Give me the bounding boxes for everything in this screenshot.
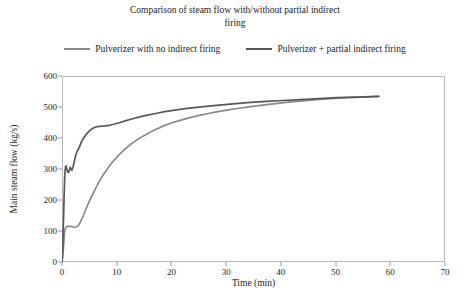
y-tick-label-200: 200 bbox=[44, 195, 58, 205]
y-tick-mark-100 bbox=[58, 231, 62, 232]
legend-label-1: Pulverizer + partial indirect firing bbox=[277, 44, 405, 54]
series-line-0 bbox=[62, 96, 379, 262]
x-tick-mark-40 bbox=[280, 262, 281, 266]
x-tick-mark-10 bbox=[116, 262, 117, 266]
x-tick-label-70: 70 bbox=[441, 267, 450, 277]
y-tick-label-100: 100 bbox=[44, 226, 58, 236]
y-tick-label-500: 500 bbox=[44, 102, 58, 112]
y-tick-label-300: 300 bbox=[44, 164, 58, 174]
y-tick-mark-300 bbox=[58, 169, 62, 170]
x-tick-mark-30 bbox=[226, 262, 227, 266]
x-tick-mark-60 bbox=[390, 262, 391, 266]
x-tick-label-0: 0 bbox=[60, 267, 65, 277]
x-tick-label-10: 10 bbox=[112, 267, 121, 277]
y-tick-mark-500 bbox=[58, 107, 62, 108]
x-tick-label-40: 40 bbox=[276, 267, 285, 277]
plot-lines bbox=[62, 76, 445, 262]
x-axis-label: Time (min) bbox=[62, 278, 445, 288]
plot-area: 0100200300400500600 010203040506070 bbox=[62, 76, 445, 262]
legend-item-0: Pulverizer with no indirect firing bbox=[64, 44, 220, 54]
chart-legend: Pulverizer with no indirect firing Pulve… bbox=[0, 44, 470, 54]
y-axis-label: Main steam flow (kg/s) bbox=[6, 76, 22, 262]
series-line-1 bbox=[62, 96, 379, 262]
y-tick-label-0: 0 bbox=[53, 257, 58, 267]
x-tick-mark-20 bbox=[171, 262, 172, 266]
x-tick-mark-70 bbox=[445, 262, 446, 266]
legend-label-0: Pulverizer with no indirect firing bbox=[95, 44, 220, 54]
legend-swatch-0 bbox=[64, 48, 90, 50]
x-tick-mark-0 bbox=[62, 262, 63, 266]
x-tick-label-30: 30 bbox=[222, 267, 231, 277]
y-tick-mark-400 bbox=[58, 138, 62, 139]
x-tick-label-50: 50 bbox=[331, 267, 340, 277]
chart-container: Comparison of steam flow with/without pa… bbox=[0, 0, 470, 302]
x-tick-mark-50 bbox=[335, 262, 336, 266]
legend-item-1: Pulverizer + partial indirect firing bbox=[246, 44, 405, 54]
y-tick-mark-600 bbox=[58, 76, 62, 77]
y-tick-mark-200 bbox=[58, 200, 62, 201]
y-tick-label-400: 400 bbox=[44, 133, 58, 143]
legend-swatch-1 bbox=[246, 48, 272, 50]
chart-title: Comparison of steam flow with/without pa… bbox=[60, 4, 410, 29]
x-tick-label-60: 60 bbox=[386, 267, 395, 277]
y-tick-label-600: 600 bbox=[44, 71, 58, 81]
x-tick-label-20: 20 bbox=[167, 267, 176, 277]
